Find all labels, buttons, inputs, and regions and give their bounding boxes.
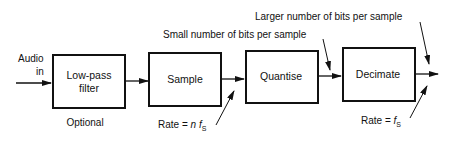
lowpass-label-line1: Low-pass bbox=[67, 69, 112, 81]
larger-bits-pointer bbox=[420, 22, 429, 64]
input-label-in: in bbox=[36, 66, 44, 77]
lowpass-label-line2: filter bbox=[79, 82, 99, 94]
optional-label: Optional bbox=[66, 117, 103, 128]
quantise-label: Quantise bbox=[260, 70, 302, 82]
small-bits-pointer bbox=[323, 39, 330, 70]
signal-chain-diagram: Audio in Low-pass filter Optional Sample… bbox=[0, 0, 452, 141]
larger-bits-label: Larger number of bits per sample bbox=[255, 11, 403, 22]
decimate-label: Decimate bbox=[356, 68, 401, 80]
sample-label: Sample bbox=[167, 73, 203, 85]
input-label-audio: Audio bbox=[18, 53, 44, 64]
small-bits-label: Small number of bits per sample bbox=[163, 29, 307, 40]
rate-output-label: Rate = fS bbox=[361, 115, 401, 128]
rate-sample-label: Rate = n fS bbox=[158, 119, 207, 132]
